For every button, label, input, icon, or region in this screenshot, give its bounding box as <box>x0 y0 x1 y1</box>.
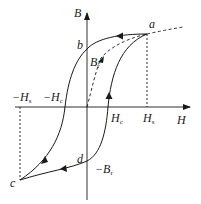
br-label: Br <box>90 55 100 70</box>
hc-label: Hc <box>110 111 123 126</box>
h-axis-label: H <box>176 113 187 127</box>
initial-magnetization-curve <box>87 34 147 107</box>
neg-br-label: −Br <box>95 162 113 177</box>
ascending-arrow-bottom-icon <box>60 165 67 172</box>
point-c-label: c <box>10 176 16 190</box>
point-b-label: b <box>77 38 83 52</box>
neg-hc-label: −Hc <box>43 90 63 105</box>
point-d-label: d <box>77 152 84 166</box>
b-axis-label: B <box>74 6 82 20</box>
descending-branch <box>20 33 147 181</box>
hs-label: Hs <box>142 111 155 126</box>
hysteresis-diagram: B H a b c d Br −Br Hc −Hc Hs −Hs <box>0 0 201 204</box>
descending-arrow-top-icon <box>116 33 123 40</box>
point-a-label: a <box>149 17 155 31</box>
ascending-arrow-right-icon <box>106 92 113 99</box>
neg-hs-label: −Hs <box>12 90 32 105</box>
descending-arrow-bottom-icon <box>41 156 48 164</box>
